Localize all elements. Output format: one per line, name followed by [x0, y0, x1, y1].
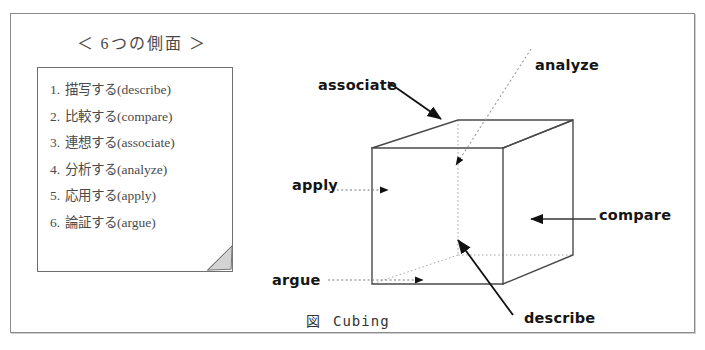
label-describe: describe	[524, 310, 595, 326]
list-item-english: (compare)	[117, 109, 172, 124]
six-aspects-panel: ＜ 6つの側面 ＞ 1.描写する(describe) 2.比較する(compar…	[29, 22, 264, 302]
list-item-japanese: 描写する	[65, 82, 117, 97]
list-item: 5.応用する(apply)	[50, 183, 232, 210]
label-argue: argue	[272, 272, 320, 288]
list-item: 4.分析する(analyze)	[50, 157, 232, 184]
label-analyze: analyze	[535, 57, 599, 73]
note-card: 1.描写する(describe) 2.比較する(compare) 3.連想する(…	[37, 67, 233, 272]
list-item-japanese: 分析する	[65, 162, 117, 177]
list-item-number: 6.	[50, 210, 65, 237]
list-item-number: 2.	[50, 104, 65, 131]
list-item-english: (apply)	[117, 188, 156, 203]
list-title: ＜ 6つの側面 ＞	[29, 30, 254, 54]
list-item-english: (associate)	[117, 135, 175, 150]
figure-mark: 図	[306, 313, 321, 329]
folded-corner-icon	[205, 244, 233, 272]
list-item: 3.連想する(associate)	[50, 130, 232, 157]
cubing-figure: associate analyze apply compare argue de…	[266, 27, 705, 350]
list-item: 2.比較する(compare)	[50, 104, 232, 131]
list-item-japanese: 連想する	[65, 135, 117, 150]
list-item: 6.論証する(argue)	[50, 210, 232, 237]
figure-caption: 図Cubing	[306, 310, 390, 330]
aspect-list: 1.描写する(describe) 2.比較する(compare) 3.連想する(…	[38, 68, 232, 236]
list-item-english: (describe)	[117, 82, 171, 97]
label-apply: apply	[292, 177, 338, 193]
arrow-describe	[458, 240, 513, 315]
list-item-japanese: 応用する	[65, 188, 117, 203]
list-item-number: 5.	[50, 183, 65, 210]
list-item-japanese: 比較する	[65, 109, 117, 124]
label-associate: associate	[318, 77, 397, 93]
list-item-english: (argue)	[117, 215, 156, 230]
list-item-english: (analyze)	[117, 162, 167, 177]
list-item-number: 1.	[50, 77, 65, 104]
list-item-number: 4.	[50, 157, 65, 184]
list-item-number: 3.	[50, 130, 65, 157]
list-item: 1.描写する(describe)	[50, 77, 232, 104]
figure-caption-text: Cubing	[333, 313, 390, 329]
list-item-japanese: 論証する	[65, 215, 117, 230]
label-compare: compare	[599, 207, 671, 223]
page-frame: ＜ 6つの側面 ＞ 1.描写する(describe) 2.比較する(compar…	[10, 13, 695, 333]
